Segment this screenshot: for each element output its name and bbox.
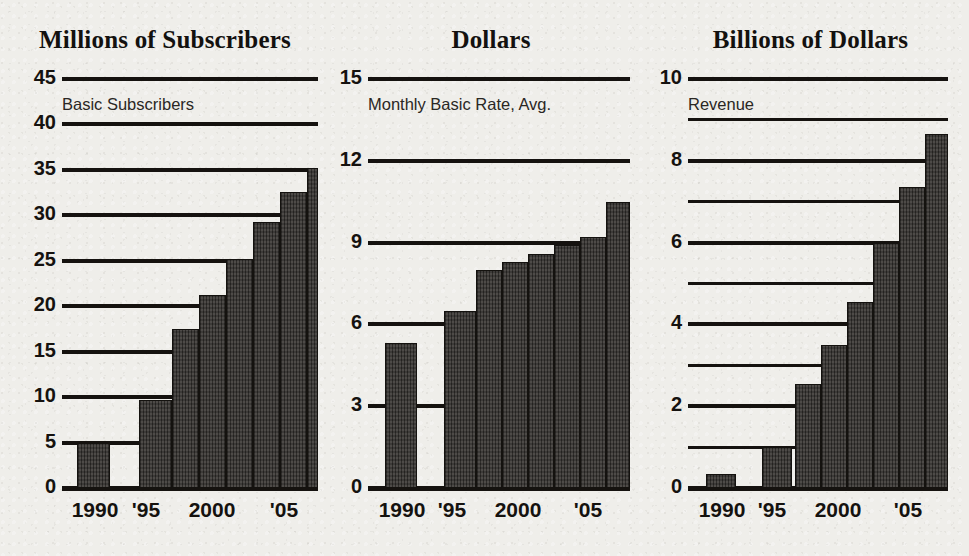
y-axis-tick-label: 12 (330, 148, 362, 171)
y-axis-tick-label: 20 (0, 293, 56, 316)
y-axis-tick-label: 45 (0, 66, 56, 89)
chart-page: Millions of Subscribers 4540353025201510… (0, 0, 969, 556)
y-axis-tick-label: 0 (652, 475, 682, 498)
y-axis-tick-label: 10 (0, 384, 56, 407)
bar (172, 329, 199, 488)
bar (77, 443, 110, 488)
bar (139, 400, 172, 488)
y-axis-tick-label: 15 (330, 66, 362, 89)
bar (307, 168, 318, 488)
y-axis-tick-label: 8 (652, 148, 682, 171)
y-axis-tick-label: 10 (652, 66, 682, 89)
bar (873, 243, 899, 488)
bar (606, 202, 630, 488)
bar (554, 245, 580, 488)
bar (762, 447, 792, 488)
bar (925, 134, 948, 488)
gridline-major (368, 159, 630, 163)
bar (580, 237, 606, 488)
chart-panel-dollars: Dollars 151296301990'952000'05 Monthly B… (330, 0, 652, 556)
bar (253, 222, 280, 488)
y-axis-tick-label: 6 (652, 230, 682, 253)
bar (444, 311, 476, 488)
plot-area-subscribers: 4540353025201510501990'952000'05 (0, 0, 330, 556)
y-axis-tick-label: 40 (0, 111, 56, 134)
gridline-major (62, 77, 318, 81)
gridline-minor (688, 118, 948, 121)
gridline-major (688, 77, 948, 81)
y-axis-tick-label: 30 (0, 202, 56, 225)
y-axis-tick-label: 4 (652, 311, 682, 334)
bar (226, 259, 253, 488)
series-label-monthly-basic-rate: Monthly Basic Rate, Avg. (368, 95, 551, 114)
bar (795, 384, 821, 488)
y-axis-tick-label: 25 (0, 248, 56, 271)
chart-panel-revenue: Billions of Dollars 10864201990'952000'0… (652, 0, 969, 556)
y-axis-tick-label: 5 (0, 430, 56, 453)
bar (199, 295, 226, 488)
x-axis-tick-label: '05 (863, 498, 953, 522)
bar (476, 270, 502, 488)
y-axis-tick-label: 35 (0, 157, 56, 180)
x-axis-tick-label: '05 (543, 498, 633, 522)
y-axis-tick-label: 6 (330, 311, 362, 334)
bar (528, 254, 554, 488)
gridline-major (688, 159, 948, 163)
gridline-major (368, 77, 630, 81)
y-axis-tick-label: 0 (330, 475, 362, 498)
y-axis-tick-label: 0 (0, 475, 56, 498)
gridline-major (62, 122, 318, 126)
bar (280, 192, 307, 488)
bar (847, 302, 873, 488)
y-axis-tick-label: 3 (330, 393, 362, 416)
bar (385, 343, 417, 488)
chart-panel-subscribers: Millions of Subscribers 4540353025201510… (0, 0, 330, 556)
bar (502, 262, 528, 488)
plot-area-dollars: 151296301990'952000'05 (330, 0, 652, 556)
gridline-major (62, 168, 318, 172)
bar (899, 187, 925, 488)
y-axis-tick-label: 2 (652, 393, 682, 416)
plot-area-revenue: 10864201990'952000'05 (652, 0, 969, 556)
x-axis-tick-label: '05 (239, 498, 329, 522)
series-label-basic-subscribers: Basic Subscribers (62, 95, 194, 114)
series-label-revenue: Revenue (688, 95, 754, 114)
bar (706, 474, 736, 488)
y-axis-tick-label: 15 (0, 339, 56, 362)
bar (821, 345, 847, 488)
y-axis-tick-label: 9 (330, 230, 362, 253)
